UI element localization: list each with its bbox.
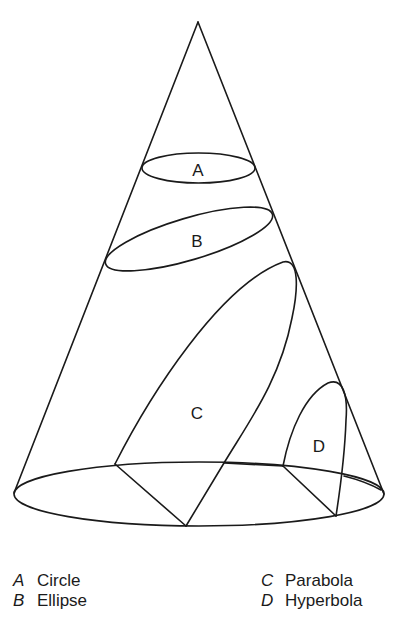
ellipse-section-b [100, 194, 279, 284]
label-d: D [313, 437, 325, 456]
cone-right-edge [198, 22, 384, 494]
label-b: B [191, 232, 202, 251]
legend-key: A [13, 571, 37, 591]
label-a: A [192, 161, 204, 180]
legend-key: C [261, 571, 285, 591]
cone-base-ellipse [14, 462, 384, 526]
legend-key: D [261, 591, 285, 611]
legend-key: B [13, 591, 37, 611]
conic-sections-diagram: A B C D [0, 0, 399, 560]
legend-item-ellipse: B Ellipse [13, 591, 87, 611]
legend-left: A Circle B Ellipse [13, 571, 87, 611]
hyperbola-base-chord [283, 466, 336, 516]
cone [14, 22, 384, 526]
legend-name: Ellipse [37, 591, 87, 611]
legend-name: Parabola [285, 571, 353, 591]
parabola-section-c [115, 262, 296, 526]
legend-name: Hyperbola [285, 591, 363, 611]
label-c: C [191, 404, 203, 423]
legend-item-parabola: C Parabola [261, 571, 363, 591]
legend-right: C Parabola D Hyperbola [261, 571, 363, 611]
legend-item-hyperbola: D Hyperbola [261, 591, 363, 611]
legend-name: Circle [37, 571, 80, 591]
parabola-left-chord [115, 464, 186, 526]
legend-item-circle: A Circle [13, 571, 87, 591]
parabola-curve [115, 262, 296, 526]
